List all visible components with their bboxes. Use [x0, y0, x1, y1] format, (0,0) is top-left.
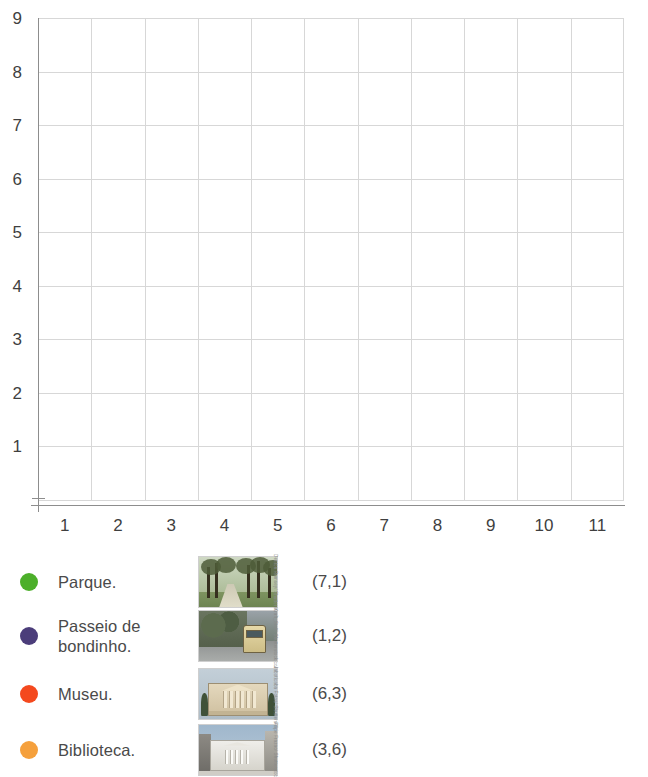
legend-dot-cell [0, 685, 58, 703]
x-axis-tick-labels: 1234567891011 [0, 505, 648, 540]
gridline-horizontal [38, 72, 624, 73]
graph-page: 123456789 1234567891011 Parque. Denton R… [0, 0, 648, 777]
gridline-horizontal [38, 500, 624, 501]
legend-label: Passeio de bondinho. [58, 616, 198, 656]
legend-dot-biblioteca [20, 741, 38, 759]
gridline-horizontal [38, 232, 624, 233]
legend-row[interactable]: Parque. Denton Rumsey/ Shutterstock.com(… [0, 554, 648, 610]
gridline-vertical [571, 18, 572, 500]
gridline-horizontal [38, 339, 624, 340]
y-tick-label-6: 6 [13, 171, 22, 188]
y-tick-label-4: 4 [13, 278, 22, 295]
image-credit: Kraft_Stoff/ Shutterstock.com [264, 608, 278, 660]
x-tick-label-1: 1 [60, 517, 69, 534]
gridline-vertical [251, 18, 252, 500]
legend-dot-cell [0, 627, 58, 645]
y-axis-tick-labels: 123456789 [0, 0, 30, 505]
gridline-horizontal [38, 393, 624, 394]
gridline-vertical [145, 18, 146, 500]
y-axis-line [38, 18, 39, 510]
legend-row[interactable]: Biblioteca. Filipe Frazao/ Shutterstock.… [0, 722, 648, 777]
legend-dot-parque [20, 573, 38, 591]
legend-coordinate: (7,1) [306, 572, 347, 592]
legend-dot-cell [0, 741, 58, 759]
gridline-horizontal [38, 18, 624, 19]
gridline-horizontal [38, 125, 624, 126]
legend-dot-cell [0, 573, 58, 591]
legend-thumbnail-cell: Jaboticaba Fotos/ Shutterstock.com [198, 666, 306, 722]
x-tick-label-9: 9 [486, 517, 495, 534]
legend-dot-passeio-de-bondinho [20, 627, 38, 645]
gridline-vertical [464, 18, 465, 500]
y-tick-label-5: 5 [13, 224, 22, 241]
x-tick-label-4: 4 [220, 517, 229, 534]
legend-thumbnail-cell: Kraft_Stoff/ Shutterstock.com [198, 608, 306, 664]
image-credit: Denton Rumsey/ Shutterstock.com [264, 554, 278, 606]
y-tick-label-8: 8 [13, 64, 22, 81]
x-tick-label-3: 3 [166, 517, 175, 534]
gridline-vertical [358, 18, 359, 500]
legend-coordinate: (3,6) [306, 740, 347, 760]
legend-label: Biblioteca. [58, 740, 198, 760]
y-tick-label-3: 3 [13, 331, 22, 348]
gridline-vertical [623, 18, 624, 500]
legend-thumbnail-cell: Denton Rumsey/ Shutterstock.com [198, 554, 306, 610]
legend-dot-museu [20, 685, 38, 703]
legend-thumbnail-cell: Filipe Frazao/ Shutterstock.com [198, 722, 306, 777]
legend-coordinate: (6,3) [306, 684, 347, 704]
legend-row[interactable]: Passeio de bondinho. Kraft_Stoff/ Shutte… [0, 608, 648, 664]
x-tick-label-7: 7 [380, 517, 389, 534]
legend-label: Parque. [58, 572, 198, 592]
gridline-vertical [304, 18, 305, 500]
x-tick-label-5: 5 [273, 517, 282, 534]
x-tick-label-8: 8 [433, 517, 442, 534]
legend-coordinate: (1,2) [306, 626, 347, 646]
gridline-vertical [91, 18, 92, 500]
legend-label: Museu. [58, 684, 198, 704]
image-credit: Jaboticaba Fotos/ Shutterstock.com [264, 666, 278, 718]
gridline-horizontal [38, 446, 624, 447]
y-tick-label-2: 2 [13, 385, 22, 402]
gridline-horizontal [38, 286, 624, 287]
y-tick-label-1: 1 [13, 438, 22, 455]
x-tick-label-2: 2 [113, 517, 122, 534]
legend-row[interactable]: Museu. Jaboticaba Fotos/ Shutterstock.co… [0, 666, 648, 722]
y-tick-label-9: 9 [13, 10, 22, 27]
x-tick-label-10: 10 [535, 517, 554, 534]
image-credit: Filipe Frazao/ Shutterstock.com [264, 722, 278, 774]
gridline-vertical [517, 18, 518, 500]
x-tick-label-6: 6 [326, 517, 335, 534]
coordinate-plane-chart: 123456789 1234567891011 [0, 0, 648, 540]
plot-area[interactable] [38, 18, 624, 500]
legend: Parque. Denton Rumsey/ Shutterstock.com(… [0, 540, 648, 777]
gridline-horizontal [38, 179, 624, 180]
y-tick-label-7: 7 [13, 117, 22, 134]
x-tick-label-11: 11 [589, 517, 607, 534]
gridline-vertical [411, 18, 412, 500]
gridline-vertical [198, 18, 199, 500]
